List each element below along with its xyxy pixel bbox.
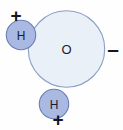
molecule-canvas: O H H + – + — [0, 0, 123, 130]
partial-negative-charge-right: – — [107, 37, 119, 60]
water-molecule-diagram: O H H + – + — [0, 0, 123, 130]
partial-positive-charge-upper-left: + — [10, 5, 21, 26]
hydrogen-upper-left-atom-label: H — [17, 29, 26, 43]
partial-positive-charge-lower: + — [52, 109, 63, 130]
oxygen-atom-label: O — [61, 42, 71, 57]
